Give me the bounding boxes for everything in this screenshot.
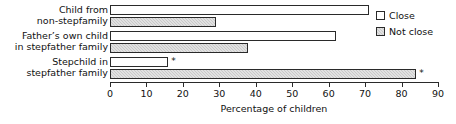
x-axis-title: Percentage of children [110, 103, 438, 114]
x-tick-label: 80 [396, 88, 408, 99]
x-tick-label: 60 [323, 88, 335, 99]
x-tick-label: 90 [432, 88, 444, 99]
x-tick [438, 82, 439, 87]
x-tick-label: 10 [140, 88, 152, 99]
x-tick [183, 82, 184, 87]
x-tick [402, 82, 403, 87]
category-label-2-line-1: stepfather family [0, 67, 108, 78]
category-label-0: Child from non-stepfamily [0, 4, 108, 26]
legend-swatch-close-icon [376, 11, 385, 20]
bar-row [110, 43, 438, 53]
bar-row: * [110, 69, 438, 79]
category-label-1: Father’s own child in stepfather family [0, 30, 108, 52]
bar-row: * [110, 57, 438, 67]
x-tick-label: 0 [107, 88, 113, 99]
x-tick [110, 82, 111, 87]
x-tick-label: 50 [286, 88, 298, 99]
bar-1-close [110, 31, 336, 41]
x-tick-label: 30 [213, 88, 225, 99]
significance-marker: * [419, 68, 424, 78]
bar-0-notclose [110, 17, 216, 27]
legend: Close Not close [376, 9, 433, 41]
category-label-1-line-0: Father’s own child [0, 30, 108, 41]
legend-item-close: Close [376, 9, 433, 22]
category-label-2: Stepchild in stepfather family [0, 56, 108, 78]
x-tick [146, 82, 147, 87]
category-label-2-line-0: Stepchild in [0, 56, 108, 67]
bar-1-notclose [110, 43, 248, 53]
legend-label-not-close: Not close [389, 26, 433, 37]
bar-2-close [110, 57, 168, 67]
x-tick [219, 82, 220, 87]
significance-marker: * [171, 56, 176, 66]
x-axis: 0102030405060708090 [110, 82, 438, 83]
x-tick [329, 82, 330, 87]
x-tick [256, 82, 257, 87]
bar-2-notclose [110, 69, 416, 79]
legend-swatch-not-close-icon [376, 27, 385, 36]
bar-0-close [110, 5, 369, 15]
legend-item-not-close: Not close [376, 25, 433, 38]
category-label-0-line-1: non-stepfamily [0, 15, 108, 26]
x-tick-label: 20 [177, 88, 189, 99]
x-tick [365, 82, 366, 87]
bar-chart: Child from non-stepfamily Father’s own c… [0, 0, 456, 124]
legend-label-close: Close [389, 10, 415, 21]
x-tick-label: 40 [250, 88, 262, 99]
category-label-0-line-0: Child from [0, 4, 108, 15]
x-tick [292, 82, 293, 87]
category-label-1-line-1: in stepfather family [0, 41, 108, 52]
x-tick-label: 70 [359, 88, 371, 99]
